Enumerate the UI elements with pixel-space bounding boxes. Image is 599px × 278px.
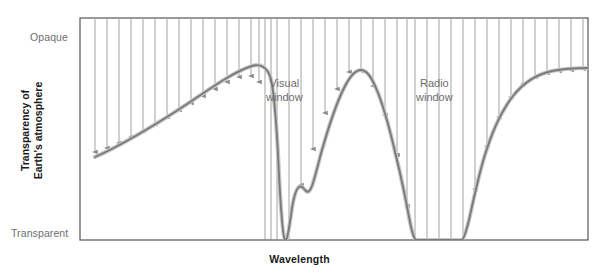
y-axis-title-line2: Earth's atmosphere (31, 82, 43, 180)
y-axis-title-line1: Transparency of (19, 90, 31, 171)
annotation-radio-window-line1: Radio (420, 77, 449, 89)
opacity-curve-group (95, 65, 588, 240)
y-axis-tick-transparent: Transparent (11, 227, 68, 239)
annotation-radio-window: Radio window (416, 76, 453, 104)
y-axis-tick-opaque: Opaque (30, 31, 68, 43)
atmospheric-transparency-figure: Opaque Transparent Transparency of Earth… (0, 0, 599, 278)
x-axis-title: Wavelength (0, 253, 599, 265)
annotation-visual-window-line1: Visual (269, 77, 299, 89)
incident-radiation-rays (95, 19, 583, 241)
annotation-visual-window-line2: window (266, 91, 303, 103)
annotation-visual-window: Visual window (266, 76, 303, 104)
y-axis-title: Transparency of Earth's atmosphere (19, 51, 44, 211)
opacity-curve (95, 65, 588, 240)
annotation-radio-window-line2: window (416, 91, 453, 103)
plot-frame (80, 18, 588, 240)
figure-canvas (0, 0, 599, 278)
